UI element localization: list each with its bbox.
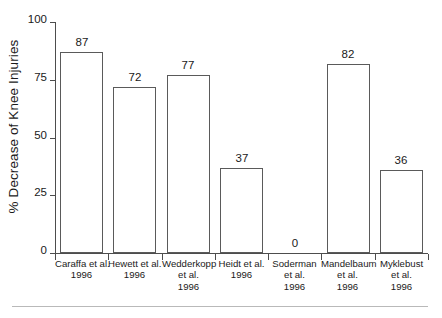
y-axis-title: % Decrease of Knee Injuries	[0, 0, 26, 253]
category-label-line: 1996	[268, 281, 321, 292]
category-label-line: 1996	[321, 281, 374, 292]
bar	[113, 87, 156, 253]
plot-area: 0255075100 8772773708236	[55, 22, 428, 253]
x-axis-category-label: Caraffa et al.1996	[55, 258, 108, 281]
x-axis-category-label: Mandelbaumet al.1996	[321, 258, 374, 292]
category-label-line: Caraffa et al.	[55, 258, 108, 269]
bar-value-label: 37	[212, 153, 272, 165]
category-label-line: 1996	[108, 269, 161, 280]
category-label-line: et al.	[375, 269, 428, 280]
x-axis-category-label: Heidt et al.1996	[215, 258, 268, 281]
bar-value-label: 77	[158, 60, 218, 72]
bar-value-label: 0	[265, 238, 325, 250]
category-label-line: Heidt et al.	[215, 258, 268, 269]
category-label-line: Hewett et al.	[108, 258, 161, 269]
category-label-line: et al.	[162, 269, 215, 280]
x-axis-category-label: Hewett et al.1996	[108, 258, 161, 281]
y-axis-tick	[50, 80, 56, 81]
y-axis-tick	[50, 138, 56, 139]
y-axis-tick-label: 75	[34, 72, 47, 84]
category-label-line: Wedderkopp	[162, 258, 215, 269]
y-axis-tick-label: 100	[28, 14, 47, 26]
category-label-line: Soderman	[268, 258, 321, 269]
y-axis-tick-label: 0	[41, 245, 47, 257]
footer-divider	[12, 306, 428, 307]
x-axis-category-label: Sodermanet al.1996	[268, 258, 321, 292]
category-label-line: et al.	[268, 269, 321, 280]
category-label-line: Mandelbaum	[321, 258, 374, 269]
category-label-line: 1996	[162, 281, 215, 292]
category-label-line: et al.	[321, 269, 374, 280]
x-axis-category-label: Myklebustet al.1996	[375, 258, 428, 292]
bar-value-label: 87	[52, 37, 112, 49]
bar	[60, 52, 103, 253]
y-axis-tick-label: 50	[34, 130, 47, 142]
bar-value-label: 72	[105, 72, 165, 84]
category-label-line: 1996	[375, 281, 428, 292]
x-axis-category-label: Wedderkoppet al.1996	[162, 258, 215, 292]
y-axis-tick	[50, 22, 56, 23]
bar	[380, 170, 423, 253]
category-label-line: Myklebust	[375, 258, 428, 269]
x-axis-tick	[428, 254, 429, 260]
bar	[167, 75, 210, 253]
bar-value-label: 82	[318, 49, 378, 61]
category-label-line: 1996	[215, 269, 268, 280]
bar	[220, 168, 263, 253]
bar	[327, 64, 370, 253]
category-label-line: 1996	[55, 269, 108, 280]
bar-value-label: 36	[371, 155, 431, 167]
bar-chart-figure: % Decrease of Knee Injuries 0255075100 8…	[0, 0, 442, 318]
x-axis-line	[55, 253, 428, 254]
y-axis-tick-label: 25	[34, 187, 47, 199]
y-axis-tick	[50, 195, 56, 196]
